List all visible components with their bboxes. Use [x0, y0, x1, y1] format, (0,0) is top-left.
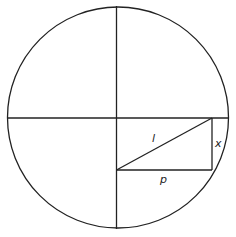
label-p: p [159, 173, 167, 186]
hypotenuse-l-line [117, 118, 213, 170]
label-l: l [152, 132, 155, 145]
circle-diagram: l x p [0, 0, 236, 237]
label-x: x [214, 137, 222, 150]
